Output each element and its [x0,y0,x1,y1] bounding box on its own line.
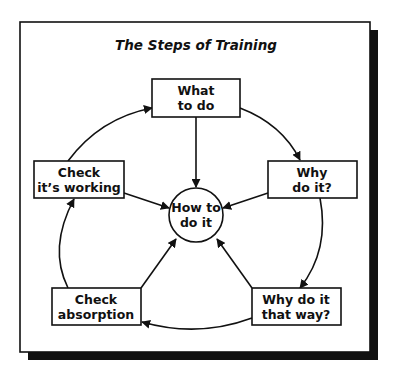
step-why-do-it: Why do it? [268,161,357,198]
diagram-title: The Steps of Training [115,37,277,53]
training-steps-diagram: The Steps of Training How to do it What … [0,0,395,378]
step-label-2: do it? [292,180,331,195]
step-check-its-working: Check it’s working [34,161,124,198]
step-label-2: to do [178,98,215,113]
step-label-2: it’s working [37,180,121,195]
step-label-2: absorption [58,307,134,322]
step-label-2: that way? [262,307,331,322]
center-node: How to do it [169,188,223,242]
center-label-1: How to [171,200,221,215]
step-label-1: Check [75,292,118,307]
step-label-1: Why [297,165,328,180]
step-label-1: Why do it [262,292,329,307]
center-label-2: do it [180,215,212,230]
step-label-1: What [177,83,214,98]
step-label-1: Check [58,165,101,180]
step-check-absorption: Check absorption [52,288,141,325]
step-why-do-it-that-way: Why do it that way? [252,288,341,325]
step-what-to-do: What to do [152,79,240,117]
